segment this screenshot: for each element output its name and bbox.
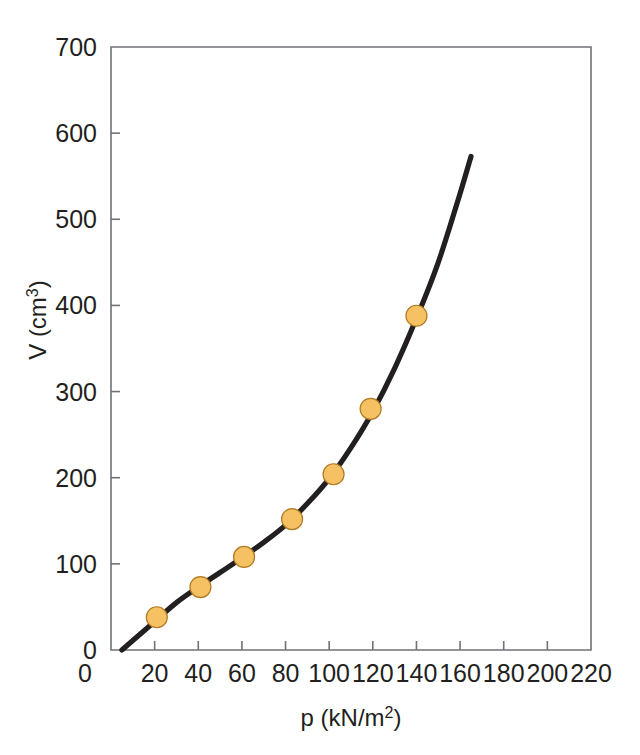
x-tick-label: 0 [78,659,92,687]
data-point-marker [406,305,427,326]
pressure-volume-scatter-chart: 0100200300400500600700 02040608010012014… [0,0,640,755]
x-tick-label: 100 [308,659,350,687]
y-tick-label: 400 [55,291,97,319]
y-tick-label: 300 [55,378,97,406]
data-point-marker [323,464,344,485]
x-axis-tick-labels: 020406080100120140160180200220 [78,659,612,687]
x-tick-label: 140 [396,659,438,687]
x-tick-label: 180 [483,659,525,687]
x-tick-label: 40 [184,659,212,687]
x-tick-label: 160 [439,659,481,687]
data-point-marker [190,577,211,598]
chart-figure: 0100200300400500600700 02040608010012014… [0,0,640,755]
y-tick-label: 100 [55,550,97,578]
x-tick-label: 120 [352,659,394,687]
x-tick-label: 20 [141,659,169,687]
y-tick-label: 600 [55,119,97,147]
x-tick-label: 220 [570,659,612,687]
x-tick-label: 200 [527,659,569,687]
y-tick-label: 700 [55,33,97,61]
y-tick-label: 200 [55,464,97,492]
data-point-marker [146,607,167,628]
y-tick-label: 500 [55,205,97,233]
x-tick-label: 80 [272,659,300,687]
data-point-marker [282,509,303,530]
x-tick-label: 60 [228,659,256,687]
data-point-marker [234,546,255,567]
data-point-marker [360,398,381,419]
